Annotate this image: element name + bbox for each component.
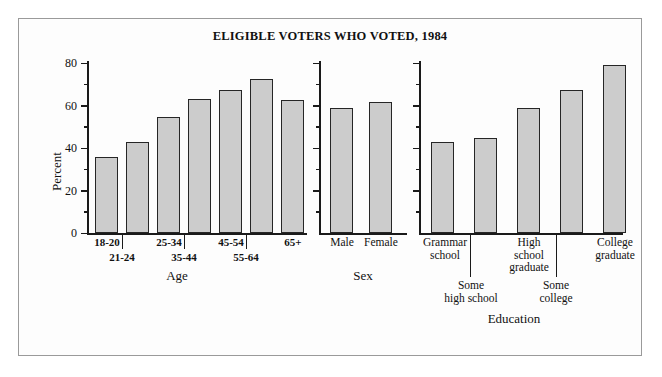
education-label-somehs-line2: high school (444, 292, 497, 304)
bar-age-55-64[interactable] (250, 79, 273, 233)
bar-sex-female[interactable] (369, 102, 392, 233)
age-label-35-44: 35-44 (158, 251, 210, 264)
sex-minor-tick-70 (316, 84, 320, 86)
age-label-45-54: 45-54 (205, 236, 257, 249)
education-minor-tick-70 (416, 84, 420, 86)
education-axis-title: Education (469, 311, 559, 327)
bar-age-21-24[interactable] (126, 142, 149, 233)
education-tick-20 (413, 190, 420, 192)
bar-age-45-54[interactable] (219, 90, 242, 234)
figure-frame: ELIGIBLE VOTERS WHO VOTED, 1984 Percent … (18, 18, 642, 356)
education-label-grammar-line1: Grammar (423, 236, 467, 248)
age-label-21-24: 21-24 (96, 251, 148, 264)
bar-education-some-college[interactable] (560, 90, 583, 234)
education-label-colgrad-line2: graduate (595, 249, 635, 261)
page-title: ELIGIBLE VOTERS WHO VOTED, 1984 (19, 29, 641, 44)
age-x-axis-line (87, 233, 307, 235)
sex-minor-tick-30 (316, 169, 320, 171)
education-minor-tick-30 (416, 169, 420, 171)
bar-age-65plus[interactable] (281, 100, 304, 233)
sex-label-female: Female (355, 236, 407, 249)
education-minor-tick-50 (416, 126, 420, 128)
y-tick-60 (81, 105, 88, 107)
sex-tick-40 (313, 148, 320, 150)
education-label-some-college: Some college (522, 279, 590, 304)
y-tick-80 (81, 63, 88, 65)
y-tick-label-0: 0 (51, 227, 77, 239)
education-tick-60 (413, 105, 420, 107)
education-label-somecol-line1: Some (543, 279, 569, 291)
bar-education-some-high-school[interactable] (474, 138, 497, 233)
education-label-hsgrad-line3: graduate (509, 261, 549, 273)
bar-age-18-20[interactable] (95, 157, 118, 234)
education-label-college-graduate: College graduate (586, 236, 644, 261)
education-minor-tick-10 (416, 211, 420, 213)
education-label-grammar-line2: school (430, 249, 460, 261)
education-tick-80 (413, 63, 420, 65)
education-label-some-high-school: Some high school (432, 279, 510, 304)
bar-age-35-44[interactable] (188, 99, 211, 233)
y-minor-tick-30 (84, 169, 88, 171)
education-label-hsgrad-line1: High (518, 236, 541, 248)
age-label-65plus: 65+ (267, 236, 319, 249)
y-tick-20 (81, 190, 88, 192)
sex-tick-20 (313, 190, 320, 192)
y-tick-label-60: 60 (51, 100, 77, 112)
education-label-grammar-school: Grammar school (416, 236, 474, 261)
y-tick-label-40: 40 (51, 142, 77, 154)
y-tick-label-80: 80 (51, 57, 77, 69)
sex-tick-80 (313, 63, 320, 65)
education-x-axis-line (419, 233, 623, 235)
age-label-55-64: 55-64 (220, 251, 272, 264)
bar-education-college-graduate[interactable] (603, 65, 626, 233)
sex-minor-tick-10 (316, 211, 320, 213)
education-label-somecol-line2: college (539, 292, 572, 304)
bar-age-25-34[interactable] (157, 117, 180, 233)
sex-minor-tick-50 (316, 126, 320, 128)
bar-education-grammar-school[interactable] (431, 142, 454, 233)
y-tick-label-20: 20 (51, 185, 77, 197)
bar-sex-male[interactable] (330, 108, 353, 233)
sex-tick-60 (313, 105, 320, 107)
age-axis-title: Age (147, 268, 207, 284)
y-minor-tick-70 (84, 84, 88, 86)
sex-x-axis-line (319, 233, 407, 235)
y-minor-tick-10 (84, 211, 88, 213)
education-label-somehs-line1: Some (458, 279, 484, 291)
education-label-hsgrad-line2: school (514, 249, 544, 261)
education-tick-40 (413, 148, 420, 150)
y-minor-tick-50 (84, 126, 88, 128)
education-label-high-school-graduate: High school graduate (500, 236, 558, 274)
bar-education-high-school-graduate[interactable] (517, 108, 540, 233)
education-label-colgrad-line1: College (597, 236, 633, 248)
age-label-25-34: 25-34 (143, 236, 195, 249)
age-label-18-20: 18-20 (81, 236, 133, 249)
y-tick-40 (81, 148, 88, 150)
sex-axis-title: Sex (333, 268, 393, 284)
